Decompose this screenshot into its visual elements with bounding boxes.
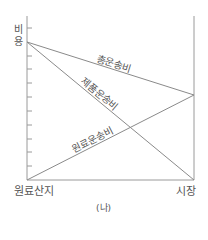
y-axis-label-char-2: 용 — [12, 36, 24, 48]
figure-caption: (나) — [96, 204, 111, 213]
y-axis-label-char-1: 비 — [12, 24, 24, 36]
x-axis-right-label: 시장 — [176, 186, 196, 197]
x-axis-left-label: 원료산지 — [14, 186, 54, 197]
y-axis-ticks — [27, 28, 32, 166]
